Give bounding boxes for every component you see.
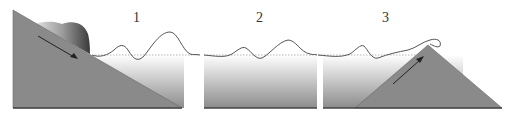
water-body xyxy=(204,55,317,108)
panel-3-label: 3 xyxy=(382,10,389,25)
landslide-tsunami-diagram: 1 2 3 xyxy=(0,0,515,114)
panel-3 xyxy=(318,39,502,108)
panel-1-label: 1 xyxy=(133,10,140,25)
panel-2 xyxy=(204,40,317,108)
diagram-canvas: 1 2 3 xyxy=(0,0,515,114)
panel-2-label: 2 xyxy=(256,10,263,25)
panel-1 xyxy=(13,10,200,108)
